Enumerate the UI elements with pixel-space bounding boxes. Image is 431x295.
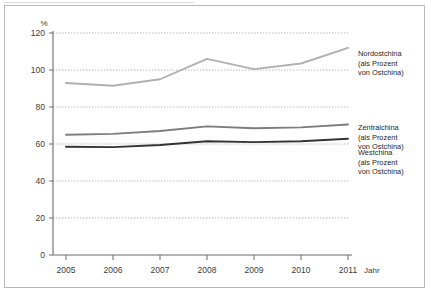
y-tick-label-40: 40 xyxy=(36,176,46,186)
series-line-zentralchina xyxy=(66,125,348,135)
x-tick-label-2011: 2011 xyxy=(339,265,358,275)
y-tick-label-80: 80 xyxy=(36,102,46,112)
chart-screenshot: % 120 100 80 60 40 20 0 2005 2006 2007 2… xyxy=(0,0,431,295)
series-line-westchina xyxy=(66,139,348,147)
series-line-nordostchina xyxy=(66,48,348,86)
x-tick-label-2009: 2009 xyxy=(245,265,264,275)
x-tick-label-2005: 2005 xyxy=(57,265,76,275)
y-axis-unit-label: % xyxy=(40,19,47,28)
x-tick-label-2010: 2010 xyxy=(292,265,311,275)
x-tick-label-2007: 2007 xyxy=(151,265,170,275)
y-tick-label-20: 20 xyxy=(36,213,46,223)
y-tick-label-120: 120 xyxy=(31,28,45,38)
x-axis-unit-label: Jahr xyxy=(364,266,380,275)
y-tick-label-60: 60 xyxy=(36,139,46,149)
y-tick-label-0: 0 xyxy=(40,250,45,260)
x-tick-marks xyxy=(66,255,348,260)
legend-label-nordostchina: Nordostchina (als Prozent von Ostchina) xyxy=(358,49,404,78)
legend-label-westchina: Westchina (als Prozent von Ostchina) xyxy=(358,148,404,177)
x-tick-label-2008: 2008 xyxy=(198,265,217,275)
y-tick-marks xyxy=(49,33,53,255)
x-tick-label-2006: 2006 xyxy=(104,265,123,275)
y-tick-label-100: 100 xyxy=(31,65,45,75)
